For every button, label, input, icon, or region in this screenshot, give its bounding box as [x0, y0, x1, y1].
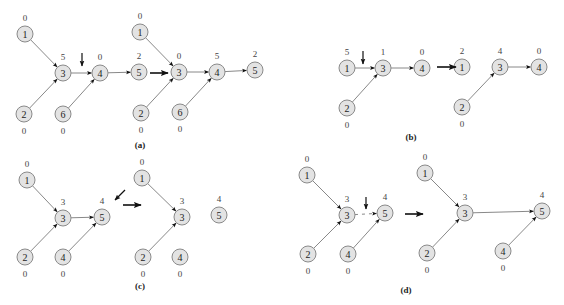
node-id-label: 2 — [141, 252, 146, 263]
node-id-label: 2 — [345, 103, 350, 114]
edge-2-to-3 — [468, 73, 495, 101]
node-id-label: 1 — [140, 173, 145, 184]
caption-c: (c) — [135, 281, 145, 291]
node-id-label: 1 — [423, 168, 428, 179]
node-id-label: 1 — [345, 63, 350, 74]
panel-b-graph-after: 12344020 — [454, 46, 547, 129]
node-4: 40 — [414, 47, 430, 76]
node-id-label: 1 — [138, 27, 143, 38]
node-2: 20 — [16, 106, 32, 136]
edge-2-to-3 — [146, 78, 173, 107]
edge-3-to-5 — [473, 211, 534, 213]
node-id-label: 5 — [137, 67, 142, 78]
tree-transformation-diagram: 1035405220601030455220601531402012344020… — [0, 0, 564, 305]
node-1: 10 — [17, 13, 33, 42]
node-id-label: 4 — [420, 63, 425, 74]
node-id-label: 6 — [61, 109, 66, 120]
node-5: 52 — [131, 51, 147, 80]
edge-1-to-3 — [148, 184, 176, 211]
node-3: 33 — [55, 197, 71, 226]
edge-4-to-5 — [69, 223, 96, 251]
edge-1-to-3 — [146, 38, 173, 66]
node-2: 20 — [454, 99, 470, 129]
rank-label: 0 — [141, 269, 146, 279]
node-id-label: 2 — [306, 249, 311, 260]
node-id-label: 1 — [23, 29, 28, 40]
rank-label: 0 — [420, 47, 425, 57]
edge-2-to-3 — [31, 224, 57, 251]
node-1: 10 — [299, 154, 315, 183]
edge-2-to-3 — [352, 74, 377, 102]
panel-a-graph-before: 103540522060 — [16, 13, 147, 136]
node-id-label: 2 — [460, 102, 465, 113]
node-id-label: 4 — [178, 252, 183, 263]
node-3: 34 — [492, 46, 508, 75]
node-id-label: 3 — [463, 208, 468, 219]
panel-c-graph-after: 1033542040 — [134, 157, 227, 279]
rank-label: 4 — [383, 192, 388, 202]
edge-2-to-3 — [433, 219, 460, 247]
node-id-label: 5 — [253, 65, 258, 76]
node-id-label: 5 — [383, 208, 388, 219]
node-5: 54 — [377, 192, 393, 221]
node-1: 10 — [134, 157, 150, 186]
rank-label: 0 — [140, 157, 145, 167]
rank-label: 2 — [460, 46, 465, 56]
nodes-layer: 1035405220601030455220601531402012344020… — [16, 11, 550, 279]
node-6: 60 — [55, 106, 71, 136]
rank-label: 4 — [217, 194, 222, 204]
node-id-label: 3 — [61, 68, 66, 79]
rank-label: 0 — [501, 263, 506, 273]
rank-label: 0 — [23, 269, 28, 279]
rank-label: 3 — [180, 196, 185, 206]
node-5: 54 — [534, 190, 550, 219]
edge-4-to-5 — [509, 217, 536, 245]
node-id-label: 5 — [540, 206, 545, 217]
panel-d-graph-before: 1033542040 — [299, 154, 393, 276]
node-2: 20 — [17, 249, 33, 279]
edge-3-to-5 — [71, 217, 94, 218]
node-3: 33 — [174, 196, 190, 225]
caption-b: (b) — [406, 132, 417, 142]
node-3: 33 — [339, 194, 355, 223]
node-id-label: 4 — [98, 68, 103, 79]
node-1: 10 — [19, 159, 35, 188]
rank-label: 0 — [177, 51, 182, 61]
rank-label: 2 — [137, 51, 142, 61]
node-id-label: 2 — [22, 109, 27, 120]
rank-label: 0 — [423, 152, 428, 162]
rank-label: 0 — [61, 269, 66, 279]
node-id-label: 3 — [345, 210, 350, 221]
rank-label: 3 — [463, 192, 468, 202]
rank-label: 5 — [215, 51, 220, 61]
rank-label: 5 — [345, 47, 350, 57]
caption-d: (d) — [401, 285, 412, 295]
rank-label: 1 — [381, 47, 386, 57]
rank-label: 0 — [425, 265, 430, 275]
node-id-label: 4 — [537, 62, 542, 73]
node-3: 31 — [375, 47, 391, 76]
node-2: 20 — [419, 245, 435, 275]
panel-c-graph-before: 1033542040 — [17, 159, 110, 279]
rank-label: 0 — [306, 266, 311, 276]
node-id-label: 2 — [425, 248, 430, 259]
node-id-label: 3 — [61, 213, 66, 224]
rank-label: 0 — [23, 13, 28, 23]
rank-label: 0 — [345, 120, 350, 130]
node-id-label: 4 — [61, 252, 66, 263]
node-id-label: 1 — [25, 175, 30, 186]
node-id-label: 3 — [498, 62, 503, 73]
node-1: 10 — [417, 152, 433, 181]
node-id-label: 2 — [23, 252, 28, 263]
rank-label: 4 — [498, 46, 503, 56]
node-4: 40 — [495, 243, 511, 273]
node-id-label: 3 — [180, 212, 185, 223]
node-id-label: 3 — [177, 67, 182, 78]
rank-label: 0 — [61, 126, 66, 136]
edge-2-to-3 — [149, 223, 176, 251]
node-id-label: 5 — [217, 210, 222, 221]
edge-2-to-3 — [314, 221, 341, 248]
node-id-label: 4 — [501, 246, 506, 257]
rank-label: 2 — [253, 49, 258, 59]
rank-label: 4 — [100, 196, 105, 206]
